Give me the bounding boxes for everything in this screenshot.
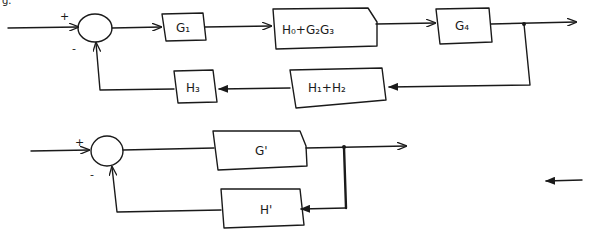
block-h0-plus-g2g3: H₀+G₂G₃	[273, 8, 377, 49]
block-g4: G₄	[436, 8, 492, 44]
block-h0-plus-g2g3-label: H₀+G₂G₃	[282, 23, 334, 37]
block-g4-label: G₄	[455, 19, 469, 33]
top-arrow-to-h3	[219, 88, 290, 89]
block-h1-plus-h2-label: H₁+H₂	[308, 81, 346, 95]
block-g-prime-label: G'	[255, 144, 268, 158]
bottom-plus-sign: +	[75, 136, 84, 149]
top-plus-sign: +	[60, 10, 69, 23]
header-fragment: g.	[2, 0, 12, 6]
top-arrow-to-g1	[112, 27, 161, 28]
top-feedback-to-junction	[96, 43, 174, 90]
block-h1-plus-h2: H₁+H₂	[290, 68, 386, 108]
block-h-prime-label: H'	[260, 203, 272, 217]
top-minus-sign: -	[72, 42, 76, 55]
top-arrow-to-g4	[376, 23, 435, 24]
bottom-feedback-to-junction	[112, 167, 221, 212]
top-summing-junction	[78, 14, 112, 42]
bottom-feedback-vertical	[344, 147, 346, 208]
top-feedback-to-h1h2	[389, 24, 530, 87]
block-g-prime: G'	[213, 131, 307, 170]
block-h-prime: H'	[221, 189, 304, 228]
top-diagram: + - G₁ H₀+G₂G₃ G₄	[8, 8, 576, 108]
block-h3-label: H₃	[186, 81, 200, 95]
bottom-summing-junction	[91, 136, 123, 166]
bottom-diagram: + - G' H'	[31, 131, 406, 228]
bottom-minus-sign: -	[90, 168, 94, 181]
block-g1: G₁	[162, 13, 206, 41]
top-arrow-to-h0g2g3	[205, 26, 271, 27]
bottom-line-to-g-prime	[123, 148, 214, 150]
block-g1-label: G₁	[176, 21, 190, 35]
standalone-left-arrow	[546, 180, 582, 181]
bottom-feedback-to-h-prime	[301, 208, 346, 209]
block-h3: H₃	[174, 70, 217, 103]
bottom-output-arrow	[306, 146, 406, 148]
bottom-input-arrow	[31, 150, 89, 151]
top-input-arrow	[8, 27, 78, 28]
block-diagram-canvas: g. + - G₁ H₀+G₂G₃ G₄	[0, 0, 590, 237]
top-output-arrow	[491, 22, 576, 24]
